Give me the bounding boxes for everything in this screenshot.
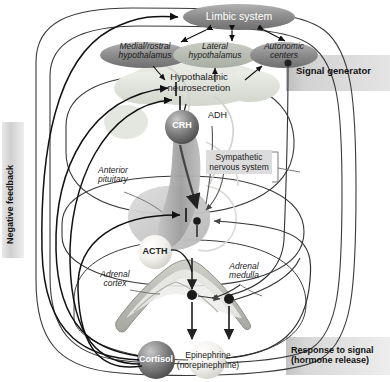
pituitary-release-point — [193, 217, 201, 225]
signal-generator-label: Signal generator — [296, 66, 371, 76]
response-line2: (hormone release) — [291, 356, 374, 366]
node-limbic-system[interactable] — [183, 4, 295, 30]
node-adrenal-medulla-point[interactable] — [224, 294, 234, 304]
node-epinephrine[interactable] — [188, 341, 226, 379]
diagram-canvas: Signal generator Response to signal (hor… — [0, 0, 390, 382]
node-cortisol[interactable] — [137, 341, 175, 379]
hpa-axis-svg — [0, 0, 390, 382]
node-acth[interactable] — [138, 235, 172, 269]
node-adrenal-cortex-point[interactable] — [187, 290, 197, 300]
response-to-signal-label: Response to signal (hormone release) — [291, 346, 374, 366]
negative-feedback-label: Negative feedback — [6, 165, 16, 244]
node-lateral-hypothalamus[interactable] — [173, 42, 257, 68]
sympathetic-label-box — [206, 150, 272, 174]
node-crh[interactable] — [165, 110, 199, 144]
